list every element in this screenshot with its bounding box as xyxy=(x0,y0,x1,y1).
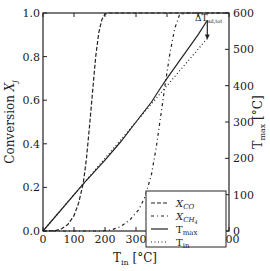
y-right-tick-label: 200 xyxy=(233,152,254,165)
x-axis-label: Tin [°C] xyxy=(113,251,157,267)
y-left-tick-label: 0.6 xyxy=(23,94,41,107)
arrow-head xyxy=(205,34,210,39)
x-tick-label: 200 xyxy=(95,233,116,246)
y-left-tick-label: 1.0 xyxy=(23,7,41,20)
chart: 01002003004005006000.00.20.40.60.81.0010… xyxy=(0,0,270,271)
y-axis-left-label: Conversion Xj xyxy=(3,80,19,164)
y-left-tick-label: 0.4 xyxy=(23,138,41,151)
y-right-tick-label: 500 xyxy=(233,43,254,56)
y-left-tick-label: 0.2 xyxy=(23,181,41,194)
x-tick-label: 100 xyxy=(64,233,85,246)
x-tick-label: 0 xyxy=(40,233,47,246)
y-right-tick-label: 600 xyxy=(233,7,254,20)
y-right-tick-label: 400 xyxy=(233,80,254,93)
y-right-tick-label: 0 xyxy=(233,225,240,238)
y-axis-right-label: Tmax [°C] xyxy=(251,95,267,148)
y-right-tick-label: 100 xyxy=(233,189,254,202)
delta-t-annotation: ΔTad,tot xyxy=(195,13,222,39)
y-left-tick-label: 0.0 xyxy=(23,225,41,238)
x-tick-label: 300 xyxy=(126,233,147,246)
delta-t-label: ΔTad,tot xyxy=(195,13,222,24)
y-left-tick-label: 0.8 xyxy=(23,51,41,64)
legend: XCO XCH4 Tmax Tin xyxy=(146,191,226,250)
